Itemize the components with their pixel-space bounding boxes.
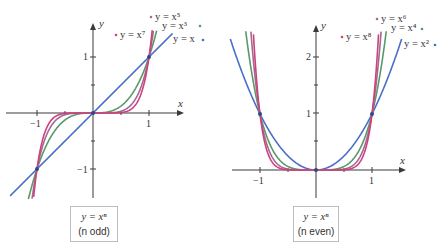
label-dot-x4 xyxy=(421,28,424,31)
label-x2: y = x² xyxy=(404,38,429,49)
right-xtick-label-1: 1 xyxy=(369,175,374,186)
figure-canvas: −1 1 1 −1 x y y = x⁵ y = x³ y = x⁷ y = x xyxy=(0,0,445,250)
right-x-axis-label: x xyxy=(399,154,405,166)
label-dot-x2 xyxy=(434,44,437,47)
label-dot-x3 xyxy=(199,25,202,28)
label-dot-x8 xyxy=(341,36,344,39)
marked-point xyxy=(91,111,95,115)
left-ytick-label-neg1: −1 xyxy=(77,164,88,175)
label-dot-x7 xyxy=(115,34,118,37)
marked-point xyxy=(314,168,318,172)
left-y-axis-arrow xyxy=(90,23,96,30)
left-y-axis-label: y xyxy=(98,17,104,29)
right-x-axis-arrow xyxy=(399,167,406,173)
left-x-axis-label: x xyxy=(177,97,183,109)
right-caption-note: (n even) xyxy=(294,224,338,239)
right-y-axis-label: y xyxy=(320,19,326,31)
label-x1: y = x xyxy=(173,33,195,44)
left-caption-box: y = xⁿ (n odd) xyxy=(70,206,118,242)
label-x8: y = x⁸ xyxy=(346,31,372,42)
marked-point xyxy=(258,112,262,116)
label-dot-x5 xyxy=(150,16,153,19)
right-y-axis-arrow xyxy=(313,25,319,32)
label-dot-x6 xyxy=(376,18,379,21)
left-caption-equation: y = xⁿ xyxy=(71,209,117,224)
right-ytick-label-1: 1 xyxy=(306,108,311,119)
right-caption-equation: y = xⁿ xyxy=(294,209,338,224)
left-curve-labels: y = x⁵ y = x³ y = x⁷ y = x xyxy=(115,11,205,44)
left-x-axis-arrow xyxy=(177,110,184,116)
marked-point xyxy=(147,55,151,59)
label-dot-x1 xyxy=(202,39,205,42)
right-curve-labels: y = x⁶ y = x⁴ y = x⁸ y = x² xyxy=(341,13,437,49)
left-xtick-label-neg1: −1 xyxy=(30,118,41,129)
right-xtick-label-neg1: −1 xyxy=(253,175,264,186)
label-x7: y = x⁷ xyxy=(120,29,146,40)
marked-point xyxy=(370,112,374,116)
left-ytick-label-1: 1 xyxy=(83,51,88,62)
marked-point xyxy=(35,167,39,171)
label-x4: y = x⁴ xyxy=(391,22,417,33)
left-xtick-label-1: 1 xyxy=(146,118,151,129)
label-x3: y = x³ xyxy=(162,20,187,31)
left-caption-note: (n odd) xyxy=(71,224,117,239)
right-caption-box: y = xⁿ (n even) xyxy=(293,206,339,242)
left-chart: −1 1 1 −1 x y y = x⁵ y = x³ y = x⁷ y = x xyxy=(6,11,204,199)
right-chart: −1 1 1 2 x y y = x⁶ y = x⁴ y = x⁸ y = x² xyxy=(230,13,436,198)
right-ytick-label-2: 2 xyxy=(306,51,311,62)
